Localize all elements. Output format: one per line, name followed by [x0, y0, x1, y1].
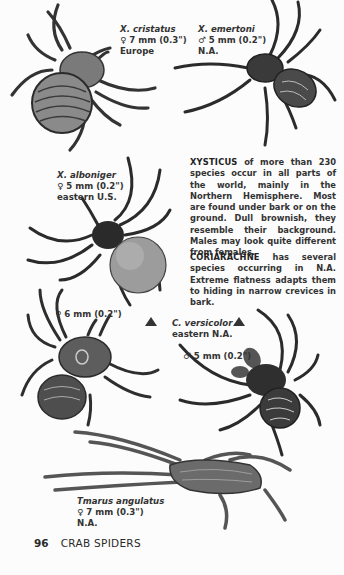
page-number: 96 [34, 537, 49, 549]
specimen-size: 7 mm (0.3") [86, 507, 143, 517]
specimen-size: 6 mm (0.2") [64, 309, 121, 319]
book-page: X. cristatus ♀ 7 mm (0.3") Europe X. eme… [0, 0, 344, 575]
genus-heading: XYSTICUS [190, 157, 238, 167]
specimen-label-c-versicolor-female: ♀ 6 mm (0.2") [55, 309, 122, 320]
female-symbol-icon: ♀ [77, 507, 83, 517]
spider-illustration-c-versicolor-female [0, 285, 180, 430]
specimen-name: X. alboniger [57, 170, 124, 181]
paragraph-xysticus: XYSTICUS of more than 230 species occur … [190, 157, 336, 259]
specimen-range: N.A. [77, 518, 164, 529]
pointer-triangle-right [233, 317, 245, 326]
specimen-size: 5 mm (0.2") [66, 181, 123, 191]
paragraph-coriarachne: CORIARACHNE has several species occurrin… [190, 252, 336, 308]
specimen-size: 5 mm (0.2") [194, 351, 251, 361]
specimen-label-tmarus-angulatus: Tmarus angulatus ♀ 7 mm (0.3") N.A. [77, 496, 164, 529]
genus-heading: CORIARACHNE [190, 252, 260, 262]
specimen-size: 7 mm (0.3") [129, 35, 186, 45]
specimen-name: C. versicolor [172, 318, 233, 329]
pointer-triangle-left [145, 317, 157, 326]
specimen-range: eastern N.A. [172, 329, 233, 340]
specimen-name: X. cristatus [120, 24, 187, 35]
female-symbol-icon: ♀ [120, 35, 126, 45]
specimen-name: Tmarus angulatus [77, 496, 164, 507]
male-symbol-icon: ♂ [198, 35, 206, 45]
female-symbol-icon: ♀ [57, 181, 63, 191]
specimen-label-x-alboniger: X. alboniger ♀ 5 mm (0.2") eastern U.S. [57, 170, 124, 203]
male-symbol-icon: ♂ [183, 351, 191, 361]
spider-illustration-tmarus-angulatus [30, 420, 310, 530]
female-symbol-icon: ♀ [55, 309, 61, 319]
specimen-name: X. emertoni [198, 24, 266, 35]
paragraph-text: of more than 230 species occur in all pa… [190, 157, 336, 257]
specimen-range: N.A. [198, 46, 266, 57]
specimen-size: 5 mm (0.2") [209, 35, 266, 45]
specimen-label-c-versicolor-male: ♂ 5 mm (0.2") [183, 351, 251, 362]
spider-illustration-x-emertoni [170, 0, 344, 150]
specimen-label-c-versicolor: C. versicolor eastern N.A. [172, 318, 233, 340]
specimen-label-x-emertoni: X. emertoni ♂ 5 mm (0.2") N.A. [198, 24, 266, 57]
page-footer: 96CRAB SPIDERS [34, 537, 141, 549]
specimen-range: Europe [120, 46, 187, 57]
specimen-label-x-cristatus: X. cristatus ♀ 7 mm (0.3") Europe [120, 24, 187, 57]
section-title: CRAB SPIDERS [61, 537, 141, 549]
specimen-range: eastern U.S. [57, 192, 124, 203]
